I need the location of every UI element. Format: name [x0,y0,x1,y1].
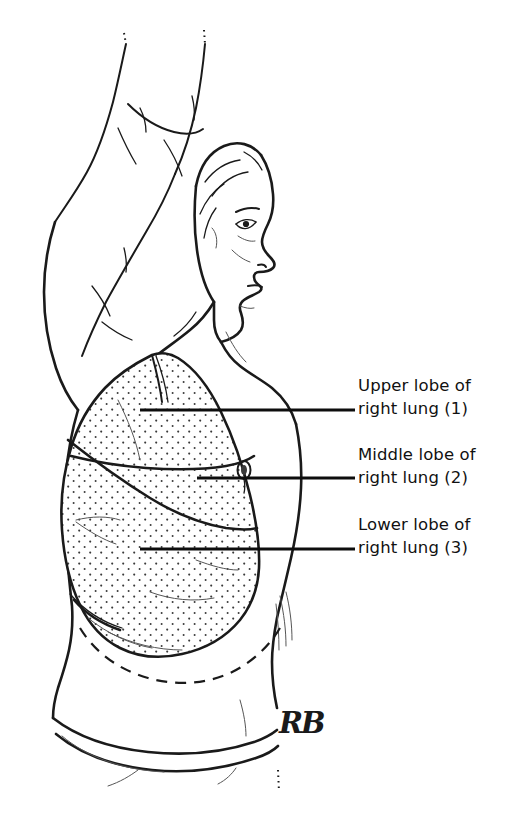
anatomy-figure: Upper lobe of right lung (1) Middle lobe… [0,0,516,820]
label-lower-lobe: Lower lobe of right lung (3) [358,513,470,560]
label-lower-lobe-line2: right lung (3) [358,536,470,559]
artist-monogram: RB [279,706,324,740]
label-upper-lobe: Upper lobe of right lung (1) [358,374,471,421]
label-middle-lobe-line1: Middle lobe of [358,445,476,464]
label-upper-lobe-line1: Upper lobe of [358,376,471,395]
label-upper-lobe-line2: right lung (1) [358,397,471,420]
label-middle-lobe: Middle lobe of right lung (2) [358,443,476,490]
label-middle-lobe-line2: right lung (2) [358,466,476,489]
label-lower-lobe-line1: Lower lobe of [358,515,470,534]
